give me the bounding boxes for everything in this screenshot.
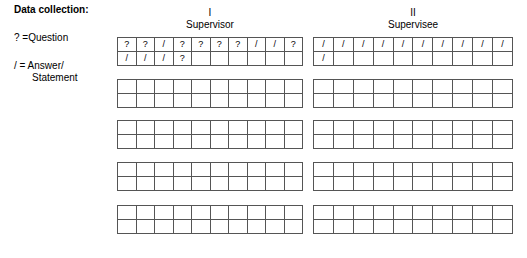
grid-cell[interactable]: / bbox=[393, 38, 413, 52]
grid-cell[interactable] bbox=[247, 206, 266, 220]
grid-cell[interactable] bbox=[284, 121, 303, 135]
grid-cell[interactable] bbox=[229, 177, 248, 191]
grid-cell[interactable] bbox=[493, 135, 513, 149]
grid-cell[interactable] bbox=[333, 121, 353, 135]
grid-cell[interactable] bbox=[314, 177, 334, 191]
grid-cell[interactable] bbox=[473, 94, 493, 108]
grid-cell[interactable] bbox=[393, 135, 413, 149]
grid-cell[interactable] bbox=[433, 52, 453, 66]
grid-cell[interactable]: / bbox=[247, 38, 266, 52]
grid-cell[interactable] bbox=[192, 177, 211, 191]
grid-cell[interactable] bbox=[493, 94, 513, 108]
grid-cell[interactable] bbox=[155, 163, 174, 177]
grid-cell[interactable] bbox=[266, 220, 285, 234]
grid-cell[interactable] bbox=[453, 121, 473, 135]
grid-cell[interactable] bbox=[413, 121, 433, 135]
grid-cell[interactable] bbox=[266, 80, 285, 94]
grid-cell[interactable] bbox=[473, 80, 493, 94]
grid-cell[interactable] bbox=[433, 94, 453, 108]
grid-cell[interactable] bbox=[266, 206, 285, 220]
grid-cell[interactable] bbox=[118, 220, 137, 234]
grid-cell[interactable] bbox=[373, 80, 393, 94]
grid-cell[interactable] bbox=[453, 163, 473, 177]
grid-cell[interactable] bbox=[473, 135, 493, 149]
grid-cell[interactable] bbox=[136, 177, 155, 191]
grid-cell[interactable] bbox=[155, 94, 174, 108]
grid-cell[interactable] bbox=[173, 121, 192, 135]
grid-cell[interactable] bbox=[333, 94, 353, 108]
grid-cell[interactable] bbox=[314, 94, 334, 108]
grid-cell[interactable]: / bbox=[118, 52, 137, 66]
grid-cell[interactable] bbox=[210, 94, 229, 108]
grid-cell[interactable]: / bbox=[473, 38, 493, 52]
grid-cell[interactable] bbox=[247, 80, 266, 94]
grid-cell[interactable] bbox=[353, 80, 373, 94]
grid-cell[interactable] bbox=[173, 206, 192, 220]
grid-cell[interactable] bbox=[433, 80, 453, 94]
grid-cell[interactable]: ? bbox=[229, 38, 248, 52]
grid-cell[interactable] bbox=[247, 135, 266, 149]
grid-cell[interactable] bbox=[173, 135, 192, 149]
grid-cell[interactable] bbox=[373, 94, 393, 108]
grid-cell[interactable] bbox=[453, 52, 473, 66]
grid-cell[interactable] bbox=[192, 163, 211, 177]
grid-cell[interactable] bbox=[333, 177, 353, 191]
grid-cell[interactable] bbox=[118, 206, 137, 220]
grid-cell[interactable] bbox=[229, 206, 248, 220]
grid-cell[interactable] bbox=[433, 206, 453, 220]
grid-cell[interactable] bbox=[353, 121, 373, 135]
grid-cell[interactable]: / bbox=[314, 38, 334, 52]
grid-cell[interactable] bbox=[473, 52, 493, 66]
grid-cell[interactable] bbox=[353, 94, 373, 108]
grid-cell[interactable] bbox=[353, 220, 373, 234]
grid-cell[interactable] bbox=[413, 163, 433, 177]
grid-cell[interactable] bbox=[229, 163, 248, 177]
grid-cell[interactable] bbox=[192, 121, 211, 135]
grid-cell[interactable] bbox=[353, 177, 373, 191]
grid-cell[interactable] bbox=[266, 163, 285, 177]
grid-cell[interactable] bbox=[393, 163, 413, 177]
grid-cell[interactable] bbox=[473, 121, 493, 135]
grid-cell[interactable] bbox=[373, 220, 393, 234]
grid-cell[interactable] bbox=[493, 121, 513, 135]
grid-cell[interactable] bbox=[453, 94, 473, 108]
grid-cell[interactable] bbox=[473, 206, 493, 220]
grid-cell[interactable] bbox=[136, 163, 155, 177]
grid-cell[interactable] bbox=[433, 135, 453, 149]
grid-cell[interactable] bbox=[192, 80, 211, 94]
grid-cell[interactable] bbox=[413, 80, 433, 94]
grid-cell[interactable] bbox=[136, 220, 155, 234]
grid-cell[interactable] bbox=[493, 220, 513, 234]
grid-cell[interactable] bbox=[136, 206, 155, 220]
grid-cell[interactable] bbox=[210, 80, 229, 94]
grid-cell[interactable] bbox=[413, 94, 433, 108]
grid-cell[interactable] bbox=[155, 135, 174, 149]
grid-cell[interactable] bbox=[210, 163, 229, 177]
grid-cell[interactable] bbox=[473, 177, 493, 191]
grid-cell[interactable] bbox=[314, 163, 334, 177]
grid-cell[interactable] bbox=[473, 163, 493, 177]
grid-cell[interactable]: ? bbox=[192, 38, 211, 52]
grid-cell[interactable] bbox=[433, 177, 453, 191]
grid-cell[interactable]: / bbox=[136, 52, 155, 66]
grid-cell[interactable] bbox=[393, 80, 413, 94]
grid-cell[interactable]: / bbox=[155, 52, 174, 66]
grid-cell[interactable] bbox=[373, 121, 393, 135]
grid-cell[interactable] bbox=[229, 52, 248, 66]
grid-cell[interactable] bbox=[118, 94, 137, 108]
grid-cell[interactable] bbox=[353, 163, 373, 177]
grid-cell[interactable] bbox=[413, 220, 433, 234]
grid-cell[interactable]: / bbox=[373, 38, 393, 52]
grid-cell[interactable] bbox=[433, 163, 453, 177]
grid-cell[interactable] bbox=[314, 206, 334, 220]
grid-cell[interactable] bbox=[314, 121, 334, 135]
grid-cell[interactable] bbox=[333, 52, 353, 66]
grid-cell[interactable] bbox=[192, 220, 211, 234]
grid-cell[interactable] bbox=[118, 80, 137, 94]
grid-cell[interactable] bbox=[118, 121, 137, 135]
grid-cell[interactable]: / bbox=[155, 38, 174, 52]
grid-cell[interactable] bbox=[136, 94, 155, 108]
grid-cell[interactable] bbox=[173, 163, 192, 177]
grid-cell[interactable] bbox=[136, 135, 155, 149]
grid-cell[interactable]: / bbox=[266, 38, 285, 52]
